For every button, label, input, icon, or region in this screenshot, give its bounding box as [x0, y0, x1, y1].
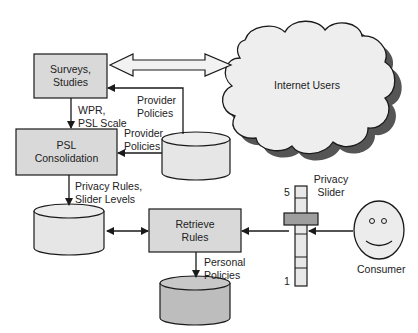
- slider-min-label: 1: [284, 275, 290, 288]
- slider-max-label: 5: [284, 186, 290, 199]
- personal-policies-label: Personal Policies: [204, 256, 245, 282]
- consumer-label: Consumer: [357, 263, 405, 276]
- provider-database: [162, 132, 230, 180]
- retrieve-rules-label: Retrieve Rules: [149, 218, 241, 244]
- wpr-psl-scale-label: WPR, PSL Scale: [78, 104, 127, 130]
- diagram-canvas: Surveys, Studies PSL Consolidation Retri…: [0, 0, 418, 333]
- double-arrow-icon: [110, 54, 231, 76]
- privacy-rules-label: Privacy Rules, Slider Levels: [75, 180, 142, 206]
- personal-policies-database: [160, 276, 230, 325]
- diagram-graphics: [0, 0, 418, 333]
- provider-policies-label-1: Provider Policies: [137, 94, 176, 120]
- privacy-slider-label: Privacy Slider: [308, 173, 354, 199]
- slider-handle[interactable]: [284, 213, 318, 225]
- privacy-slider[interactable]: [284, 186, 318, 286]
- provider-policies-label-2: Provider Policies: [124, 127, 163, 153]
- internet-users-label: Internet Users: [274, 79, 340, 92]
- surveys-studies-label: Surveys, Studies: [34, 63, 107, 89]
- rules-database: [34, 204, 104, 255]
- consumer-smiley-icon: [354, 201, 404, 259]
- psl-consolidation-label: PSL Consolidation: [16, 139, 117, 165]
